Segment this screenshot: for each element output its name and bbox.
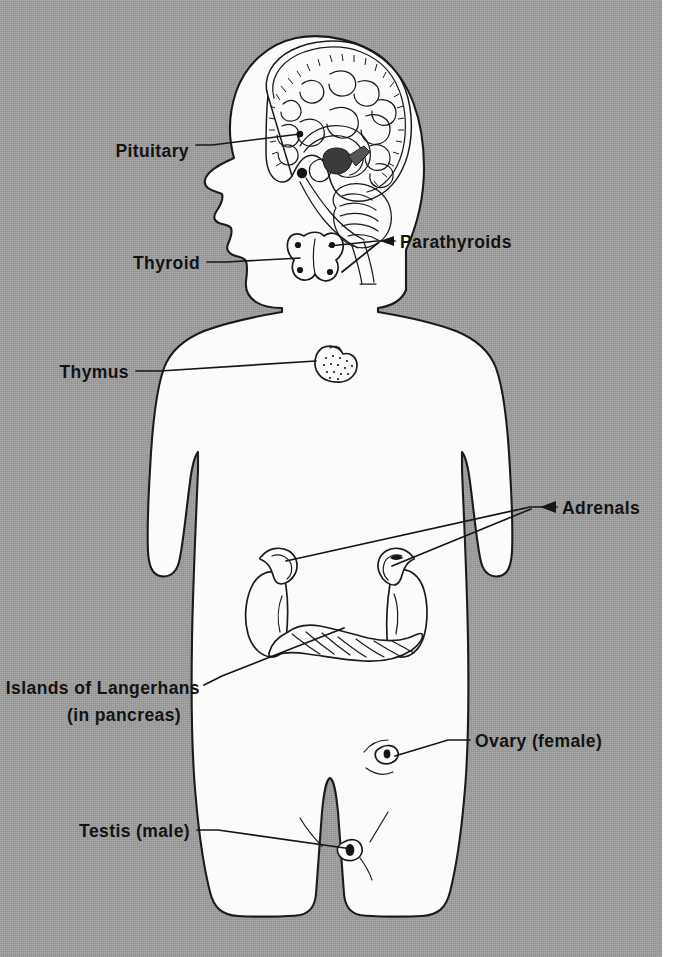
label-adrenals[interactable]: Adrenals [562, 498, 640, 518]
arrowhead-adrenals [540, 501, 556, 513]
label-parathyroids[interactable]: Parathyroids [400, 232, 512, 252]
label-pituitary[interactable]: Pituitary [115, 141, 189, 161]
label-thymus[interactable]: Thymus [60, 362, 130, 382]
diagram-page: Pituitary Thyroid Parathyroids Thymus Ad… [0, 0, 677, 957]
label-islands-of-langerhans[interactable]: Islands of Langerhans [6, 678, 200, 698]
label-thyroid[interactable]: Thyroid [133, 253, 200, 273]
label-ovary[interactable]: Ovary (female) [475, 731, 602, 751]
endocrine-system-diagram: Pituitary Thyroid Parathyroids Thymus Ad… [0, 0, 662, 957]
pituitary-gland-marker [297, 168, 307, 178]
label-testis[interactable]: Testis (male) [79, 821, 190, 841]
label-islands-of-langerhans-sub: (in pancreas) [67, 705, 181, 725]
thyroid-gland [287, 232, 343, 281]
